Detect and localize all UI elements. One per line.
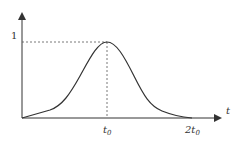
- x-axis-label: t: [226, 105, 231, 116]
- x-tick-2t0: 2t0: [184, 124, 200, 137]
- y-tick-1: 1: [11, 30, 17, 41]
- x-tick-t0: t0: [103, 124, 112, 137]
- pulse-diagram: 1 t t0 2t0: [0, 0, 239, 141]
